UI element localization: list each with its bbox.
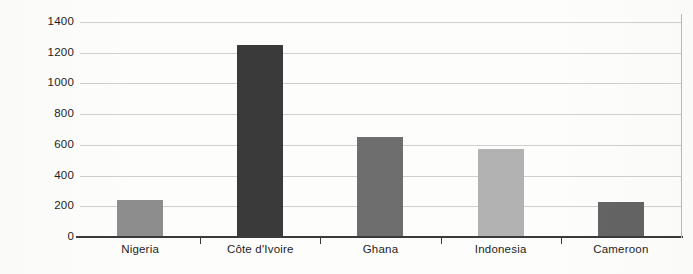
x-tick (320, 237, 321, 244)
right-axis-rule (681, 14, 682, 238)
bar-slot (200, 22, 320, 237)
bar (237, 45, 283, 237)
x-tick (200, 237, 201, 244)
y-tick-label-800: 800 (4, 108, 74, 120)
bar (478, 149, 524, 237)
bar-slot (441, 22, 561, 237)
bar-slot (561, 22, 681, 237)
x-tick (441, 237, 442, 244)
x-tick (561, 237, 562, 244)
y-tick-label-400: 400 (4, 170, 74, 182)
plot-area (80, 22, 681, 237)
y-tick-label-0: 0 (4, 231, 74, 243)
bar (357, 137, 403, 237)
x-tick-label-c-te-d-ivoire: Côte d'Ivoire (200, 244, 320, 256)
y-tick-label-1000: 1000 (4, 77, 74, 89)
y-axis: 0200400600800100012001400 (0, 0, 74, 274)
x-tick-label-ghana: Ghana (320, 244, 440, 256)
y-tick-label-600: 600 (4, 139, 74, 151)
y-tick-label-1200: 1200 (4, 47, 74, 59)
bar (117, 200, 163, 237)
bar-slot (80, 22, 200, 237)
bar-slot (320, 22, 440, 237)
bar-chart-figure: 0200400600800100012001400 NigeriaCôte d'… (0, 0, 693, 274)
x-tick-label-nigeria: Nigeria (80, 244, 200, 256)
y-tick-label-1400: 1400 (4, 16, 74, 28)
x-axis-line (76, 236, 683, 238)
x-tick-label-indonesia: Indonesia (441, 244, 561, 256)
bar (598, 202, 644, 237)
x-tick-label-cameroon: Cameroon (561, 244, 681, 256)
y-tick-label-200: 200 (4, 200, 74, 212)
